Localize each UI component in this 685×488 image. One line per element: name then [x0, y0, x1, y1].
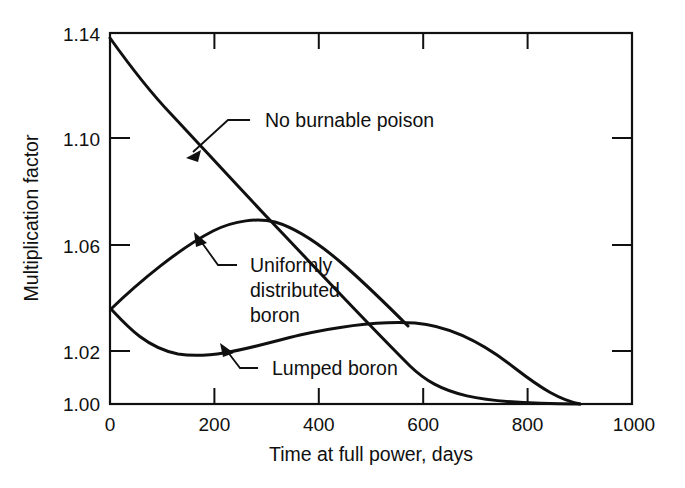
curve-no-burnable-poison	[110, 38, 580, 404]
annotation-uniform-boron-line2: distributed	[250, 279, 340, 301]
x-axis-ticks	[214, 388, 527, 404]
plot-frame	[110, 33, 632, 404]
x-tick-label-0: 0	[105, 414, 116, 435]
y-tick-label-1-10: 1.10	[63, 129, 100, 150]
x-tick-label-800: 800	[512, 414, 544, 435]
annotation-lumped-boron: Lumped boron	[272, 357, 398, 379]
y-tick-label-1-02: 1.02	[63, 342, 100, 363]
x-tick-label-1000: 1000	[613, 414, 655, 435]
annotation-uniform-boron-line1: Uniformly	[250, 254, 333, 276]
x-tick-label-200: 200	[199, 414, 231, 435]
x-tick-label-400: 400	[303, 414, 335, 435]
annotation-no-burnable-poison: No burnable poison	[265, 109, 434, 131]
y-axis-title: Multiplication factor	[20, 134, 42, 301]
multiplication-factor-chart: 1.14 1.10 1.06 1.02 1.00 0 200 400 600 8…	[0, 0, 685, 488]
x-axis-title: Time at full power, days	[269, 443, 473, 465]
annotation-uniform-boron-line3: boron	[250, 304, 300, 326]
x-axis-top-ticks	[214, 33, 527, 49]
y-axis-right-ticks	[612, 138, 632, 351]
y-tick-label-1-14: 1.14	[63, 24, 100, 45]
x-tick-label-600: 600	[407, 414, 439, 435]
y-tick-label-1-00: 1.00	[63, 394, 100, 415]
chart-page: 1.14 1.10 1.06 1.02 1.00 0 200 400 600 8…	[0, 0, 685, 488]
y-tick-label-1-06: 1.06	[63, 236, 100, 257]
